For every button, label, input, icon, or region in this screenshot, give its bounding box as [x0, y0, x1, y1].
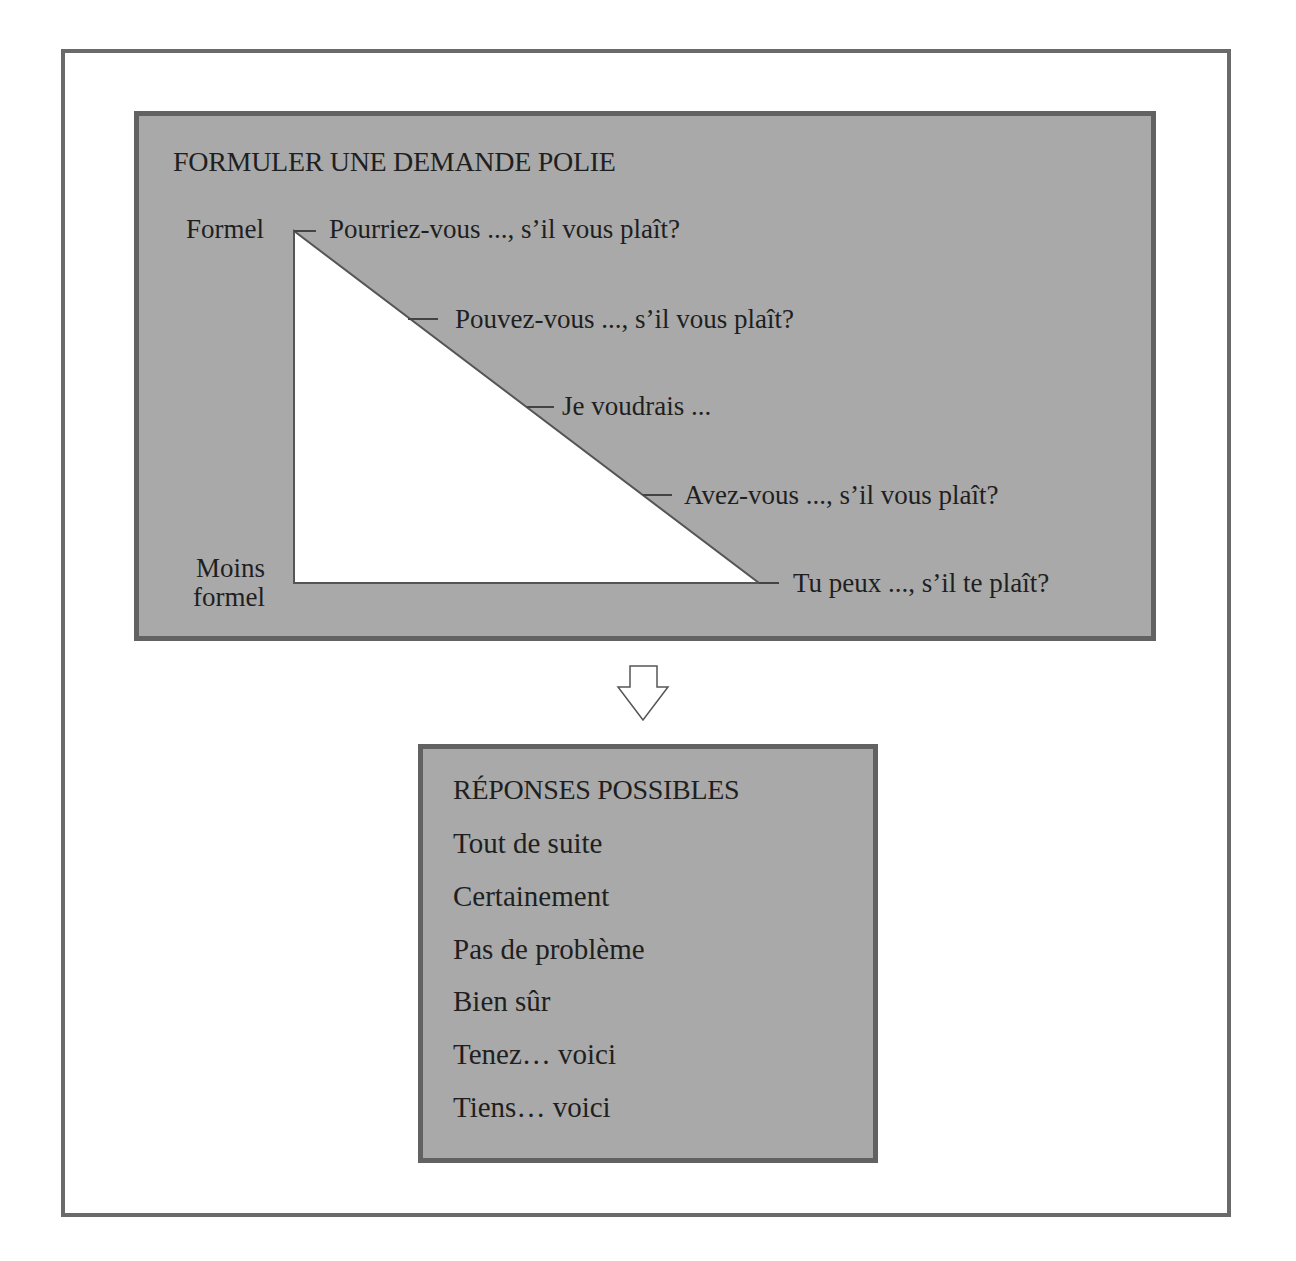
phrase-pouvez-vous: Pouvez-vous ..., s’il vous plaît? — [455, 306, 794, 333]
response-item: Bien sûr — [453, 987, 550, 1016]
response-item: Tout de suite — [453, 829, 602, 858]
response-item: Pas de problème — [453, 935, 645, 964]
responses-panel-title: RÉPONSES POSSIBLES — [453, 776, 739, 804]
response-item: Tiens… voici — [453, 1093, 611, 1122]
request-panel-title: FORMULER UNE DEMANDE POLIE — [173, 148, 616, 176]
scale-label-moins: Moins — [196, 555, 265, 582]
response-item: Tenez… voici — [453, 1040, 616, 1069]
response-item: Certainement — [453, 882, 609, 911]
scale-label-formel: Formel — [186, 216, 264, 243]
scale-label-formel-bottom: formel — [193, 584, 265, 611]
phrase-tu-peux: Tu peux ..., s’il te plaît? — [793, 570, 1049, 597]
phrase-avez-vous: Avez-vous ..., s’il vous plaît? — [684, 482, 998, 509]
phrase-je-voudrais: Je voudrais ... — [562, 393, 711, 420]
down-arrow-outline-icon — [618, 666, 668, 720]
phrase-pourriez-vous: Pourriez-vous ..., s’il vous plaît? — [329, 216, 680, 243]
